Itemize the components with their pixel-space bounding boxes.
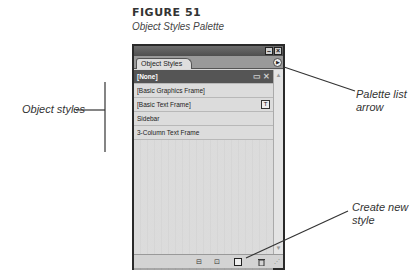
default-text-frame-icon: T bbox=[261, 100, 270, 109]
style-label: [Basic Text Frame] bbox=[137, 101, 191, 108]
callout-line: style bbox=[352, 214, 408, 227]
style-row-none[interactable]: [None] ▭ ✕ bbox=[134, 70, 273, 84]
callout-palette-list-arrow: Palette list arrow bbox=[356, 88, 407, 114]
callout-object-styles: Object styles bbox=[22, 103, 85, 116]
resize-grip-icon[interactable]: ⋰ bbox=[274, 257, 282, 267]
figure-caption: Object Styles Palette bbox=[132, 20, 224, 32]
frame-icon: ▭ bbox=[253, 72, 261, 81]
style-row-basic-graphics-frame[interactable]: [Basic Graphics Frame] bbox=[134, 84, 273, 98]
style-row-3-column-text-frame[interactable]: 3-Column Text Frame bbox=[134, 126, 273, 140]
style-label: [None] bbox=[137, 73, 158, 80]
figure-number: FIGURE 51 bbox=[132, 6, 201, 19]
callout-create-new-style: Create new style bbox=[352, 201, 408, 227]
style-row-basic-text-frame[interactable]: [Basic Text Frame] T bbox=[134, 98, 273, 112]
palette-menu-arrow-icon[interactable]: ▶ bbox=[273, 58, 282, 67]
style-label: Sidebar bbox=[137, 115, 159, 122]
list-empty-area bbox=[134, 140, 273, 270]
object-styles-palette: – × Object Styles ▶ [None] ▭ ✕ [Basic Gr… bbox=[132, 44, 285, 270]
callout-line: arrow bbox=[356, 101, 407, 114]
tab-object-styles[interactable]: Object Styles bbox=[136, 58, 192, 69]
scroll-up-icon[interactable]: ▲ bbox=[275, 72, 282, 79]
no-edit-icon: ✕ bbox=[263, 72, 270, 81]
close-icon[interactable]: × bbox=[274, 47, 282, 55]
new-style-icon[interactable] bbox=[234, 258, 242, 266]
object-styles-list: [None] ▭ ✕ [Basic Graphics Frame] [Basic… bbox=[134, 70, 273, 254]
palette-bottom-bar: ⊟ ⊡ ⋰ bbox=[134, 254, 283, 268]
palette-tab-row: Object Styles ▶ bbox=[134, 56, 283, 69]
style-label: [Basic Graphics Frame] bbox=[137, 87, 205, 94]
style-row-sidebar[interactable]: Sidebar bbox=[134, 112, 273, 126]
trash-icon[interactable] bbox=[258, 258, 265, 268]
callout-line: Palette list bbox=[356, 88, 407, 101]
callout-line: Create new bbox=[352, 201, 408, 214]
list-scrollbar[interactable]: ▲ ▼ bbox=[273, 70, 283, 254]
minimize-icon[interactable]: – bbox=[265, 47, 273, 55]
clear-attributes-icon[interactable]: ⊡ bbox=[214, 258, 220, 266]
scroll-down-icon[interactable]: ▼ bbox=[275, 245, 282, 252]
style-label: 3-Column Text Frame bbox=[137, 129, 199, 136]
clear-overrides-icon[interactable]: ⊟ bbox=[196, 258, 202, 266]
palette-titlebar[interactable]: – × bbox=[134, 46, 283, 56]
